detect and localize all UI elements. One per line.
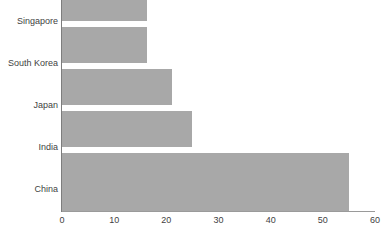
bar-chart: Singapore South Korea Japan India China … — [0, 0, 386, 239]
bar-row — [62, 111, 192, 147]
bar-india — [62, 111, 192, 147]
x-tick-label-40: 40 — [266, 215, 276, 225]
x-tick-label-50: 50 — [318, 215, 328, 225]
bar-row — [62, 27, 147, 63]
category-label-china: China — [0, 184, 58, 194]
x-axis-tick-labels: 0 10 20 30 40 50 60 — [0, 211, 386, 231]
bar-row — [62, 0, 147, 21]
bars-layer — [62, 0, 375, 211]
bar-japan — [62, 69, 172, 105]
x-tick-label-10: 10 — [109, 215, 119, 225]
x-tick-label-0: 0 — [59, 215, 64, 225]
x-tick-label-20: 20 — [161, 215, 171, 225]
category-label-singapore: Singapore — [0, 16, 58, 26]
category-label-india: India — [0, 142, 58, 152]
x-tick-label-60: 60 — [370, 215, 380, 225]
x-tick-label-30: 30 — [213, 215, 223, 225]
category-axis-labels: Singapore South Korea Japan India China — [0, 0, 58, 211]
source-note — [4, 231, 384, 239]
bar-south-korea — [62, 27, 147, 63]
bar-china — [62, 153, 349, 211]
bar-row — [62, 153, 349, 211]
bar-row — [62, 69, 172, 105]
bar-singapore — [62, 0, 147, 21]
category-label-south-korea: South Korea — [0, 58, 58, 68]
category-label-japan: Japan — [0, 100, 58, 110]
